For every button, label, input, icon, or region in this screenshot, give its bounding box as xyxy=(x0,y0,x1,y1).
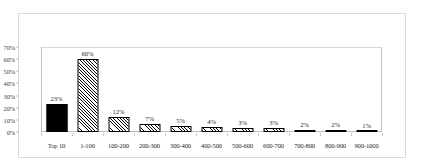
bar[interactable] xyxy=(294,130,315,132)
x-axis-tick-label: 900-1000 xyxy=(354,142,378,149)
y-axis-tick-label: 30% xyxy=(4,92,15,99)
bar-value-label: 12% xyxy=(113,108,125,115)
bar-slot: 12% xyxy=(103,47,134,132)
y-axis-tick-label: 20% xyxy=(4,104,15,111)
chart-figure: 70%60%50%40%30%20%10%0% 23%60%12%7%5%4%3… xyxy=(18,13,406,158)
y-axis-tick-mark xyxy=(16,132,19,133)
x-axis-tick-mark xyxy=(289,133,290,136)
bar-slot: 4% xyxy=(196,47,227,132)
x-axis: Top 101-100100-200200-300300-400400-5005… xyxy=(41,133,382,153)
y-axis-tick-mark xyxy=(16,83,19,84)
bar[interactable] xyxy=(170,126,191,132)
x-axis-tick-label: Top 10 xyxy=(48,142,66,149)
bar-slot: 3% xyxy=(258,47,289,132)
x-axis-tick-label: 400-500 xyxy=(201,142,222,149)
bar-value-label: 1% xyxy=(362,122,371,129)
plot-area: 23%60%12%7%5%4%3%3%2%2%1% Top 101-100100… xyxy=(41,47,382,132)
x-axis-tick-label: 300-400 xyxy=(170,142,191,149)
y-axis-tick-mark xyxy=(16,47,19,48)
y-axis-tick-mark xyxy=(16,107,19,108)
x-axis-tick-mark xyxy=(196,133,197,136)
bar-slot: 23% xyxy=(41,47,72,132)
y-axis-tick-label: 60% xyxy=(4,56,15,63)
y-axis-tick-label: 0% xyxy=(7,129,15,136)
x-axis-tick-mark xyxy=(320,133,321,136)
x-axis-tick-mark xyxy=(165,133,166,136)
bar-slot: 2% xyxy=(320,47,351,132)
bar-value-label: 4% xyxy=(207,118,216,125)
bar-value-label: 23% xyxy=(51,95,63,102)
bar[interactable] xyxy=(139,124,160,133)
x-axis-tick-label: 1-100 xyxy=(80,142,95,149)
y-axis-tick-mark xyxy=(16,119,19,120)
y-axis-tick-label: 10% xyxy=(4,116,15,123)
x-axis-tick-label: 800-900 xyxy=(325,142,346,149)
bar-slot: 5% xyxy=(165,47,196,132)
bar-value-label: 2% xyxy=(300,121,309,128)
bar-value-label: 5% xyxy=(176,117,185,124)
x-axis-tick-label: 600-700 xyxy=(263,142,284,149)
bar[interactable] xyxy=(263,128,284,132)
y-axis-tick-label: 70% xyxy=(4,44,15,51)
x-axis-tick-mark xyxy=(134,133,135,136)
bar-slot: 60% xyxy=(72,47,103,132)
bar-value-label: 3% xyxy=(269,119,278,126)
bar[interactable] xyxy=(77,59,98,132)
bar-value-label: 2% xyxy=(331,121,340,128)
bar-series: 23%60%12%7%5%4%3%3%2%2%1% xyxy=(41,47,382,132)
y-axis-tick-label: 40% xyxy=(4,80,15,87)
y-axis-tick-mark xyxy=(16,71,19,72)
x-axis-tick-label: 700-800 xyxy=(294,142,315,149)
bar-value-label: 3% xyxy=(238,119,247,126)
y-axis: 70%60%50%40%30%20%10%0% xyxy=(0,47,19,132)
bar[interactable] xyxy=(232,128,253,132)
bar[interactable] xyxy=(325,130,346,132)
bar[interactable] xyxy=(201,127,222,132)
y-axis-tick-mark xyxy=(16,95,19,96)
y-axis-tick-mark xyxy=(16,59,19,60)
x-axis-tick-label: 100-200 xyxy=(108,142,129,149)
bar-slot: 7% xyxy=(134,47,165,132)
x-axis-tick-label: 500-600 xyxy=(232,142,253,149)
x-axis-tick-label: 200-300 xyxy=(139,142,160,149)
bar-slot: 2% xyxy=(289,47,320,132)
x-axis-tick-mark xyxy=(72,133,73,136)
x-axis-tick-mark xyxy=(227,133,228,136)
x-axis-tick-mark xyxy=(382,133,383,136)
x-axis-tick-mark xyxy=(351,133,352,136)
bar[interactable] xyxy=(46,104,67,132)
bar[interactable] xyxy=(356,130,377,132)
bar-slot: 1% xyxy=(351,47,382,132)
y-axis-tick-label: 50% xyxy=(4,68,15,75)
bar-value-label: 7% xyxy=(145,115,154,122)
bar[interactable] xyxy=(108,117,129,132)
bar-slot: 3% xyxy=(227,47,258,132)
x-axis-tick-mark xyxy=(103,133,104,136)
x-axis-tick-mark xyxy=(258,133,259,136)
x-axis-tick-mark xyxy=(41,133,42,136)
bar-value-label: 60% xyxy=(82,50,94,57)
